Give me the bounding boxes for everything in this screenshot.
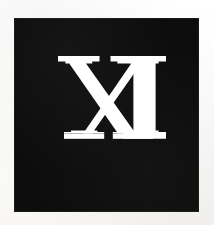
numeral-plate: XI <box>14 18 199 212</box>
page-canvas: XI <box>0 0 214 225</box>
roman-numeral-xi-artwork <box>14 18 199 212</box>
